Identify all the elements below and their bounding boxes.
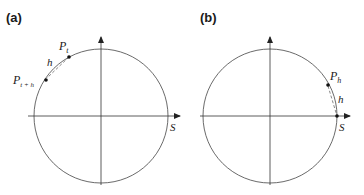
point-pt — [67, 55, 71, 59]
point-s — [335, 114, 339, 118]
label-ph: Ph — [329, 69, 341, 85]
panel-b: (b) Ph h S — [200, 10, 350, 185]
label-s: S — [170, 121, 176, 133]
point-ph — [326, 83, 330, 87]
label-pth: Pt + h — [12, 73, 35, 89]
figure: (a) Pt h Pt + h S (b) Ph h S — [0, 0, 364, 195]
panel-b-label: (b) — [200, 10, 217, 25]
label-h: h — [47, 56, 53, 68]
label-h: h — [338, 93, 344, 105]
label-pt: Pt — [58, 39, 69, 55]
panel-a: (a) Pt h Pt + h S — [6, 10, 180, 185]
label-s: S — [339, 121, 345, 133]
point-pth — [44, 78, 48, 82]
panel-a-label: (a) — [6, 10, 22, 25]
